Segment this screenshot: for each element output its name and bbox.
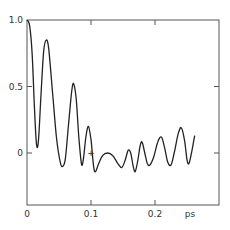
line-chart: 00.10.200.51.0ps + <box>0 0 230 230</box>
plot-border <box>27 20 219 205</box>
data-curve <box>27 20 195 172</box>
y-tick-label: 1.0 <box>9 15 24 25</box>
x-axis-label: ps <box>185 209 196 219</box>
y-tick-label: 0.5 <box>9 82 23 92</box>
x-tick-label: 0 <box>24 209 30 219</box>
plot-frame <box>27 20 219 205</box>
y-tick-label: 0 <box>17 148 23 158</box>
x-tick-label: 0.1 <box>84 209 98 219</box>
axis-ticks <box>27 20 219 205</box>
x-tick-label: 0.2 <box>148 209 162 219</box>
annotations: + <box>87 148 95 158</box>
plus-marker: + <box>87 148 95 158</box>
axis-labels: 00.10.200.51.0ps <box>9 15 196 219</box>
